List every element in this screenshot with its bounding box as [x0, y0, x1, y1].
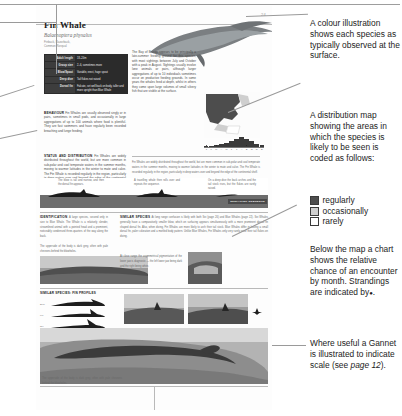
behaviour-section: BEHAVIOUR Fin Whales are usually observe… — [44, 111, 126, 133]
similar-species-text: At long range confusion is likely with b… — [120, 216, 268, 238]
fact-value: Variable, erect, huge spout — [75, 69, 127, 75]
list-item: Sei — [40, 319, 112, 328]
chart-bar — [239, 137, 243, 147]
latin-name: Balaenoptera physalus — [44, 32, 92, 38]
table-row: Group size 2–6, sometimes more — [45, 62, 127, 68]
legend-item-regularly: regularly — [310, 196, 368, 205]
similar-species-heading: SIMILAR SPECIES — [120, 215, 150, 219]
fin-silhouette — [51, 297, 105, 306]
note-gannet: Where useful a Gannet is illustrated to … — [310, 338, 402, 370]
legend-item-rarely: rarely — [310, 217, 368, 226]
fin-profiles-heading: SIMILAR SPECIES: FIN PROFILES — [40, 291, 112, 295]
list-item: Blue — [40, 297, 112, 306]
similar-species-caption: At close range the asymmetrical pigmenta… — [120, 254, 182, 268]
behaviour-heading: BEHAVIOUR — [44, 111, 64, 115]
list-item: Fin — [40, 308, 112, 317]
table-row: Blow/Spout Variable, erect, huge spout — [45, 69, 127, 75]
field-guide-page: 24 Fin Whale Balaenoptera physalus Finba… — [36, 6, 272, 410]
chart-month-label: A — [219, 147, 223, 152]
whale-photo-jaw — [188, 252, 222, 284]
surfacing-sequence-tag: SURFACING SEQUENCE — [228, 199, 267, 204]
fin-profile-label: Blue — [40, 303, 49, 306]
table-row: Adult length 18–24m — [45, 55, 127, 61]
surfacing-sequence: The blow is tall and narrow, and then th… — [40, 178, 268, 208]
map-caption-text: Fin Whales are widely distributed throug… — [132, 160, 260, 174]
note-chart: Below the map a chart shows the relative… — [310, 244, 402, 298]
chart-month-labels: JFMAMJJASOND — [204, 147, 264, 152]
fact-key: Deep dive — [45, 77, 75, 83]
table-row: Deep dive Tail flukes not raised — [45, 77, 127, 83]
section-rule — [132, 156, 260, 157]
note-map: A distribution map showing the areas in … — [310, 110, 402, 164]
identification-text: A large species, second only in size to … — [40, 216, 108, 238]
fin-profiles-section: SIMILAR SPECIES: FIN PROFILES Blue Fin S… — [40, 291, 112, 330]
legend-swatch-regularly — [310, 196, 319, 205]
bottom-divider — [154, 386, 155, 410]
chart-month-label: S — [244, 147, 248, 152]
fact-key: Group size — [45, 62, 75, 68]
surfacing-note: A travelling whale then rolls over and r… — [134, 179, 180, 187]
fin-profile-label: Fin — [40, 314, 49, 317]
chart-month-label: J — [234, 147, 238, 152]
fact-value: 18–24m — [75, 55, 127, 61]
section-rule — [40, 212, 268, 213]
surfacing-note: The blow is tall and narrow, and then th… — [58, 179, 104, 187]
fact-value: 2–6, sometimes more — [75, 62, 127, 68]
whale-photo-fin-a — [124, 294, 184, 324]
legend-swatch-rarely — [310, 217, 319, 226]
status-continued-text: The Bay of Biscay appears to be principa… — [132, 50, 196, 93]
fact-key: Adult length — [45, 55, 75, 61]
legend-item-occasionally: occasionally — [310, 207, 368, 216]
fin-silhouette — [51, 308, 105, 317]
chart-month-label: D — [260, 147, 264, 152]
whale-photo-fin-b — [188, 294, 248, 324]
section-rule — [40, 288, 268, 289]
chart-month-label: N — [254, 147, 258, 152]
legend-label: occasionally — [323, 207, 369, 215]
leader-line-left-title — [0, 22, 56, 23]
annotation-column: A colour illustration shows each species… — [283, 0, 400, 416]
leader-line-left-behaviour — [0, 130, 37, 139]
identification-section: IDENTIFICATION A large species, second o… — [40, 215, 108, 239]
chart-month-label: J — [204, 147, 208, 152]
map-legend: regularly occasionally rarely — [310, 196, 368, 228]
fact-value: Tail flukes not raised — [75, 77, 127, 83]
leader-line-vertical — [56, 4, 57, 74]
fin-silhouette — [51, 319, 105, 328]
monthly-encounter-chart: JFMAMJJASOND — [204, 136, 264, 152]
chart-month-label: M — [214, 147, 218, 152]
chart-month-label: F — [209, 147, 213, 152]
legend-label: regularly — [323, 196, 355, 204]
chart-bar — [234, 139, 238, 147]
note-illustration: A colour illustration shows each species… — [310, 18, 402, 61]
similar-species-section: SIMILAR SPECIES At long range confusion … — [120, 215, 268, 239]
chart-month-label: J — [229, 147, 233, 152]
chart-month-label: M — [224, 147, 228, 152]
page-reference: page 12 — [351, 360, 381, 370]
surfacing-silhouettes — [40, 188, 268, 198]
fact-key: Dorsal fin — [45, 84, 75, 93]
identification-caption: The upperside of the body is dark grey, … — [40, 244, 108, 254]
gannet-scale-illustration — [250, 306, 264, 328]
fact-value: Falcate, set well back on body, taller a… — [75, 84, 127, 93]
fact-key: Blow/Spout — [45, 69, 75, 75]
legend-label: rarely — [323, 217, 344, 225]
chart-bars — [204, 137, 264, 147]
chart-month-label: A — [239, 147, 243, 152]
legend-swatch-occasionally — [310, 207, 319, 216]
leader-line-left-facts — [0, 85, 34, 97]
identification-heading: IDENTIFICATION — [40, 215, 67, 219]
photo-caption: The upperside of the body is dark grey, … — [42, 377, 122, 385]
chart-month-label: O — [249, 147, 253, 152]
other-names: Finback, Razorback, Common Rorqual — [44, 40, 70, 49]
distribution-map — [204, 92, 260, 138]
status-heading: STATUS AND DISTRIBUTION — [44, 154, 92, 158]
table-row: Dorsal fin Falcate, set well back on bod… — [45, 84, 127, 93]
